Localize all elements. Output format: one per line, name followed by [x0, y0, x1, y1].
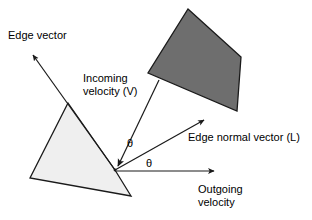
outgoing-velocity-label-line2: velocity	[198, 196, 235, 208]
edge-vector-label: Edge vector	[8, 29, 67, 42]
theta-outgoing-label: θ	[146, 158, 152, 169]
incoming-velocity-label: Incomingvelocity (V)	[83, 72, 137, 98]
outgoing-velocity-label: Outgoingvelocity	[198, 183, 243, 209]
theta-incoming-label: θ	[127, 138, 133, 149]
diagram-canvas: Edge vector Incomingvelocity (V) Edge no…	[0, 0, 312, 220]
outgoing-velocity-label-line1: Outgoing	[198, 183, 243, 195]
incoming-velocity-label-line1: Incoming	[83, 72, 128, 84]
dark-polygon	[148, 9, 241, 111]
light-polygon	[30, 103, 131, 196]
reflection-vertex	[114, 169, 117, 172]
incoming-velocity-label-line2: velocity (V)	[83, 85, 137, 97]
edge-normal-vector-label: Edge normal vector (L)	[188, 131, 300, 144]
